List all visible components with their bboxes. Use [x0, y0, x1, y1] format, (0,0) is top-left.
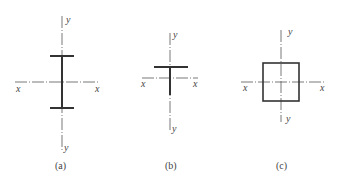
figure-b: y x x y (b)	[140, 29, 198, 172]
x-label-right-a: x	[94, 83, 100, 94]
caption-b: (b)	[165, 160, 177, 172]
y-label-top-a: y	[65, 14, 71, 25]
x-label-left-a: x	[15, 83, 21, 94]
figure-a: y x x y (a)	[15, 14, 100, 172]
x-label-left-b: x	[140, 78, 146, 89]
y-label-top-c: y	[287, 26, 293, 37]
x-label-right-c: x	[319, 82, 325, 93]
caption-a: (a)	[55, 160, 66, 172]
cross-section-diagram: y x x y (a) y x x y (b) y x x y (c)	[0, 0, 339, 184]
y-label-bottom-a: y	[63, 142, 69, 153]
figure-c: y x x y (c)	[241, 26, 325, 172]
y-label-top-b: y	[172, 29, 178, 40]
x-label-right-b: x	[192, 78, 198, 89]
x-label-left-c: x	[242, 82, 248, 93]
caption-c: (c)	[276, 160, 287, 172]
y-label-bottom-b: y	[171, 123, 177, 134]
y-label-bottom-c: y	[285, 113, 291, 124]
